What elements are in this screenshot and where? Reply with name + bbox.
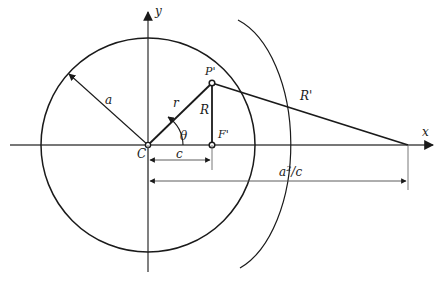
- diagram-canvas: y x C P' F' a r R R' θ c a2/c: [0, 0, 444, 283]
- point-P-prime-marker: [209, 80, 215, 86]
- point-label-P-prime: P': [205, 66, 215, 77]
- segment-label-r: r: [173, 97, 179, 109]
- dim-a-tail: /c: [291, 165, 302, 179]
- segment-label-R-prime: R': [300, 90, 312, 102]
- point-label-C: C: [137, 148, 146, 160]
- segment-label-a: a: [105, 94, 112, 106]
- arc-through-p-prime: [238, 20, 291, 268]
- dimension-label-c: c: [176, 148, 183, 160]
- segment-label-R: R: [200, 104, 209, 116]
- axis-label-y: y: [155, 5, 162, 17]
- radius-a-arrow: [69, 74, 148, 145]
- axis-label-x: x: [422, 126, 429, 138]
- dimension-label-a-squared-over-c: a2/c: [279, 166, 302, 178]
- angle-label-theta: θ: [180, 130, 187, 142]
- point-label-F-prime: F': [218, 129, 229, 140]
- geometry-svg: [0, 0, 444, 283]
